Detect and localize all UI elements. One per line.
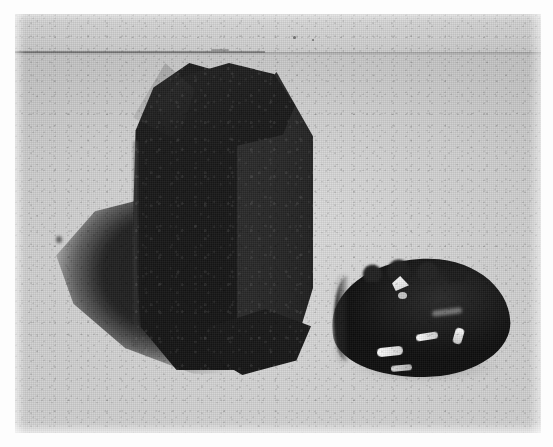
nodule-specimen [328, 259, 510, 382]
scratch-mark-near-seam [211, 49, 229, 51]
nodule-knobbly-top-edge [358, 256, 478, 282]
crystal-description: Tall dark prismatic crystal with chamfer… [0, 0, 1, 1]
dark-blot-left-margin [56, 236, 62, 243]
crystal-vertical-edge [133, 141, 138, 347]
dust-speck-a [293, 36, 296, 39]
cast-shadow-description: Soft dark wedge-shaped shadow falling to… [0, 0, 1, 1]
photograph-plate [15, 14, 541, 433]
crystal-specimen [133, 63, 313, 370]
dust-speck-b [312, 39, 314, 41]
figure-caption: Scanned halftone photograph of two dark … [0, 0, 1, 1]
figure-root: Scanned halftone photograph of two dark … [0, 0, 553, 447]
nodule-description: Smaller dark rounded nodule with a knobb… [0, 0, 1, 1]
nodule-left-inner-shadow [334, 276, 356, 362]
nodule-upper-secondary-highlight [398, 292, 407, 299]
